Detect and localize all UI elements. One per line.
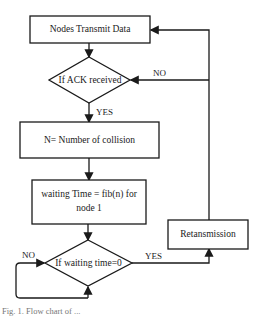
ack-yes-label: YES	[96, 107, 113, 118]
wait-no-label: NO	[22, 250, 35, 261]
waiting-time-box	[32, 180, 146, 224]
flowchart-canvas	[0, 0, 264, 317]
retransmission-label: Retansmission	[168, 229, 248, 240]
ack-no-label: NO	[153, 68, 166, 79]
transmit-label: Nodes Transmit Data	[30, 24, 150, 35]
wait-decision-label: If waiting time=0	[45, 258, 132, 269]
waiting-time-label-line1: waiting Time = fib(n) for	[32, 189, 146, 200]
ack-decision-label: If ACK received	[49, 75, 131, 86]
wait-yes-label: YES	[145, 251, 162, 262]
waiting-time-label-line2: node 1	[32, 203, 146, 214]
figure-caption: Fig. 1. Flow chart of ...	[2, 306, 80, 316]
collision-label: N= Number of collision	[20, 135, 159, 146]
